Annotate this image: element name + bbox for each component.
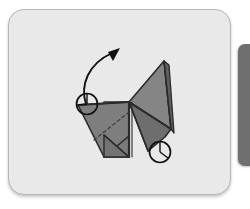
screenshot-stage: Origami folding step diagram: [0, 0, 250, 209]
rotation-arrow-head: [108, 48, 120, 61]
origami-diagram: [8, 9, 231, 195]
rotation-arrow: [84, 48, 120, 104]
reference-marker-head-tick-2: [78, 104, 87, 105]
reference-marker-foot-tick-2: [160, 152, 168, 158]
rotation-arrow-curve: [84, 53, 112, 104]
adjacent-panel-sliver[interactable]: [238, 44, 250, 166]
